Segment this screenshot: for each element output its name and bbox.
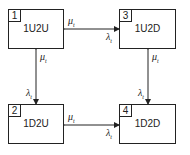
state-label: 1D2U bbox=[9, 118, 63, 129]
rate-bottom-mu: μt bbox=[68, 111, 75, 124]
state-label: 1U2D bbox=[120, 23, 175, 34]
state-number: 4 bbox=[120, 105, 132, 117]
state-4: 4 1D2D bbox=[119, 104, 176, 144]
state-number: 2 bbox=[9, 105, 21, 117]
rate-right-mu: μt bbox=[152, 51, 159, 64]
state-number: 3 bbox=[120, 10, 132, 22]
rate-right-lambda: λt bbox=[138, 87, 144, 100]
rate-left-mu: μt bbox=[40, 51, 47, 64]
rate-top-mu: μt bbox=[68, 15, 75, 28]
rate-left-lambda: λt bbox=[26, 87, 32, 100]
state-1: 1 1U2U bbox=[8, 9, 64, 49]
state-number: 1 bbox=[9, 10, 21, 22]
state-3: 3 1U2D bbox=[119, 9, 176, 49]
state-2: 2 1D2U bbox=[8, 104, 64, 144]
rate-bottom-lambda: λt bbox=[106, 127, 112, 140]
state-label: 1U2U bbox=[9, 23, 63, 34]
rate-top-lambda: λt bbox=[106, 31, 112, 44]
state-label: 1D2D bbox=[120, 118, 175, 129]
